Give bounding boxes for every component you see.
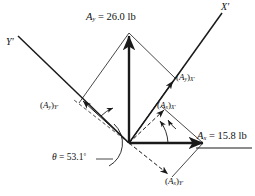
component-axis-prime: ′ — [182, 180, 183, 186]
a-x-subscript: x — [203, 134, 206, 141]
construction-ay-to-xprime — [129, 33, 176, 79]
component-axis-prime: ′ — [193, 76, 194, 82]
component-axis-prime: ′ — [174, 104, 175, 110]
resultant-guide-dashed-left — [74, 100, 129, 143]
angle-arc-x-to-xprime — [160, 121, 168, 143]
component-ay-on-xprime-label: (Ay)X′ — [176, 73, 195, 83]
theta-symbol: θ — [52, 152, 57, 162]
theta-degree-sign: ° — [83, 152, 86, 159]
y-prime-mark: ′ — [12, 36, 14, 47]
vector-decomposition-figure: Ay = 26.0 lb Ax = 15.8 lb X′ Y′ θ = 53.1… — [0, 0, 255, 196]
theta-angle-label: θ = 53.1° — [52, 153, 86, 163]
a-y-subscript: y — [92, 15, 95, 22]
a-y-unit: lb — [127, 11, 135, 22]
component-axis-prime: ′ — [57, 104, 58, 110]
x-prime-axis-label: X′ — [221, 2, 229, 12]
x-prime-mark: ′ — [227, 1, 229, 12]
a-x-unit: lb — [238, 130, 246, 141]
a-y-equals: = — [98, 11, 104, 22]
a-y-value: 26.0 — [106, 11, 124, 22]
component-ax-on-xprime-label: (Ax)X′ — [157, 101, 176, 111]
component-ay-on-yprime-label: (Ay)Y′ — [40, 101, 58, 111]
a-x-value: 15.8 — [217, 130, 235, 141]
component-ax-on-yprime-arrow — [129, 143, 168, 174]
theta-value: 53.1 — [67, 152, 84, 162]
theta-equals: = — [59, 152, 64, 162]
a-x-label: Ax = 15.8 lb — [197, 131, 247, 142]
a-y-label: Ay = 26.0 lb — [86, 12, 136, 23]
angle-arc-xprime-component — [168, 120, 176, 129]
a-x-equals: = — [209, 130, 215, 141]
component-ax-on-xprime-arrow — [129, 110, 164, 143]
construction-ax-to-yprime — [172, 143, 203, 177]
angle-arc-y-to-yprime — [101, 108, 113, 116]
y-prime-axis — [18, 36, 129, 143]
construction-ay-to-yprime — [79, 33, 129, 103]
diagram-canvas — [0, 0, 255, 196]
y-prime-axis-label: Y′ — [6, 37, 14, 47]
component-ax-on-yprime-label: (Ax)Y′ — [165, 177, 183, 187]
